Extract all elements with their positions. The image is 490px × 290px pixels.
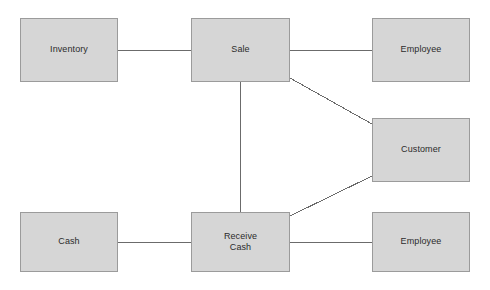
entity-label-sale: Sale: [231, 44, 249, 55]
entity-box-cash[interactable]: Cash: [20, 212, 118, 272]
connector-receive-cash-customer: [290, 176, 372, 216]
entity-box-employee_top[interactable]: Employee: [372, 18, 470, 82]
entity-label-cash: Cash: [58, 236, 79, 247]
entity-label-employee_top: Employee: [401, 44, 442, 55]
diagram-canvas: InventorySaleEmployeeCustomerCashReceive…: [0, 0, 490, 290]
entity-label-inventory: Inventory: [50, 44, 88, 55]
entity-box-inventory[interactable]: Inventory: [20, 18, 118, 82]
entity-box-employee_bottom[interactable]: Employee: [372, 212, 470, 272]
connector-sale-customer: [290, 78, 372, 124]
entity-box-receive_cash[interactable]: Receive Cash: [191, 212, 290, 272]
entity-label-customer: Customer: [401, 144, 441, 155]
entity-label-receive_cash: Receive Cash: [224, 231, 257, 254]
entity-label-employee_bottom: Employee: [401, 236, 442, 247]
entity-box-sale[interactable]: Sale: [191, 18, 290, 82]
entity-box-customer[interactable]: Customer: [372, 118, 470, 182]
